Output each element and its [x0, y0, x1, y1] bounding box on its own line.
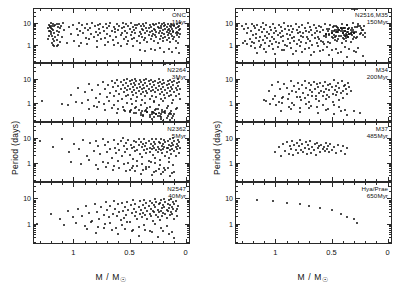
panel-n2362-name: N2362	[167, 125, 186, 132]
data-point	[148, 88, 150, 90]
data-point	[136, 165, 138, 167]
data-point	[329, 83, 331, 85]
data-point	[132, 26, 134, 28]
x-tick	[354, 183, 355, 185]
data-point	[309, 140, 311, 142]
data-point	[160, 199, 162, 201]
left-y-axis-title: Period (days)	[10, 121, 20, 175]
right-column: N2516,M35 150Myr M34 200Myr M37 485Myr H…	[202, 0, 403, 308]
data-point	[340, 110, 342, 112]
data-point	[286, 33, 288, 35]
panel-m37-label: M37 485Myr	[367, 125, 388, 140]
data-point	[67, 210, 69, 212]
data-point	[311, 34, 313, 36]
x-tick	[264, 60, 265, 62]
data-point	[277, 46, 279, 48]
data-point	[141, 146, 143, 148]
data-point	[158, 22, 160, 24]
x-tick	[174, 241, 175, 243]
data-point	[163, 33, 165, 35]
y-tick	[236, 61, 238, 62]
panel-m34: M34 200Myr	[235, 63, 392, 122]
y-tick	[389, 180, 391, 181]
data-point	[160, 173, 162, 175]
data-point	[59, 27, 61, 29]
panel-n2362: N2362 5Myr	[33, 122, 190, 182]
panel-n2516m35: N2516,M35 150Myr	[235, 8, 392, 63]
data-point	[139, 200, 141, 202]
data-point	[107, 41, 109, 43]
data-point	[173, 203, 175, 205]
x-tick	[365, 179, 366, 181]
data-point	[161, 215, 163, 217]
data-point	[162, 79, 164, 81]
data-point	[123, 217, 125, 219]
data-point	[154, 157, 156, 159]
data-point	[177, 205, 179, 207]
data-point	[145, 27, 147, 29]
data-point	[88, 108, 90, 110]
y-tick	[187, 12, 189, 13]
x-tick	[287, 64, 288, 66]
y-tick-label: 1	[27, 159, 31, 166]
x-tick	[332, 183, 333, 187]
x-tick	[62, 64, 63, 66]
data-point	[176, 215, 178, 217]
x-tick	[298, 241, 299, 243]
y-tick	[187, 145, 189, 146]
data-point	[324, 23, 326, 25]
x-tick	[107, 9, 108, 11]
data-point	[355, 37, 357, 39]
data-point	[142, 29, 144, 31]
x-tick	[365, 241, 366, 243]
data-point	[286, 141, 288, 143]
data-point	[337, 144, 339, 146]
data-point	[328, 89, 330, 91]
data-point	[136, 87, 138, 89]
data-point	[286, 87, 288, 89]
data-point	[272, 98, 274, 100]
data-point	[96, 106, 98, 108]
data-point	[98, 218, 100, 220]
data-point	[51, 35, 53, 37]
y-tick	[34, 54, 36, 55]
x-tick	[298, 64, 299, 66]
data-point	[347, 36, 349, 38]
data-point	[130, 98, 132, 100]
data-point	[127, 40, 129, 42]
x-tick	[264, 123, 265, 125]
y-tick	[34, 168, 36, 169]
data-point	[332, 93, 334, 95]
data-point	[169, 30, 171, 32]
data-point	[316, 142, 318, 144]
y-tick	[187, 172, 189, 173]
data-point	[138, 83, 140, 85]
data-point	[116, 112, 118, 114]
panel-hyaprae-label: Hya/Prae 650Myr	[361, 185, 388, 200]
data-point	[317, 45, 319, 47]
x-tick	[253, 183, 254, 185]
data-point	[126, 32, 128, 34]
x-tick	[376, 183, 377, 185]
data-point	[88, 159, 90, 161]
data-point	[155, 170, 157, 172]
data-point	[325, 88, 327, 90]
data-point	[175, 47, 177, 49]
data-point	[112, 213, 114, 215]
x-tick	[73, 58, 74, 62]
data-point	[280, 36, 282, 38]
data-point	[171, 206, 173, 208]
x-tick	[354, 241, 355, 243]
y-tick	[236, 148, 238, 149]
y-tick	[187, 96, 189, 97]
x-tick	[163, 183, 164, 185]
data-point	[50, 213, 52, 215]
y-tick	[236, 54, 238, 55]
data-point	[250, 30, 252, 32]
x-tick	[118, 9, 119, 11]
data-point	[57, 34, 59, 36]
data-point	[100, 38, 102, 40]
data-point	[106, 33, 108, 35]
data-point	[120, 88, 122, 90]
data-point	[135, 92, 137, 94]
